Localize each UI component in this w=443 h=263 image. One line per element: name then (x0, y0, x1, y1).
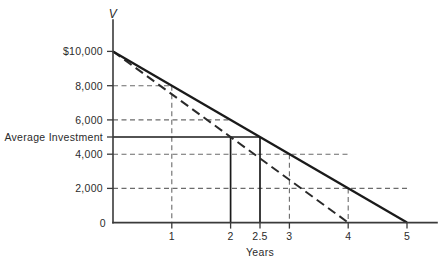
y-label-0: 0 (100, 217, 106, 229)
x-label-2-5: 2.5 (252, 230, 268, 242)
x-label-1: 1 (169, 230, 175, 242)
depreciation-chart: $10,000 8,000 6,000 Average Investment 4… (0, 0, 443, 263)
chart-canvas: $10,000 8,000 6,000 Average Investment 4… (0, 0, 443, 263)
y-label-2000: 2,000 (75, 182, 103, 194)
y-label-6000: 6,000 (75, 114, 103, 126)
x-axis-labels: 1 2 2.5 3 4 5 (169, 230, 410, 242)
x-axis-title: Years (246, 246, 274, 258)
x-axis-ticks (172, 223, 407, 229)
x-label-2: 2 (228, 230, 234, 242)
x-label-3: 3 (286, 230, 292, 242)
y-axis-labels: $10,000 8,000 6,000 Average Investment 4… (4, 45, 106, 229)
y-label-8000: 8,000 (75, 80, 103, 92)
y-label-10000: $10,000 (63, 45, 103, 57)
x-label-4: 4 (345, 230, 351, 242)
y-axis-ticks (107, 51, 113, 188)
y-axis-title: V (109, 7, 118, 21)
y-label-4000: 4,000 (75, 148, 103, 160)
y-label-average-investment: Average Investment (4, 131, 103, 143)
x-label-5: 5 (404, 230, 410, 242)
